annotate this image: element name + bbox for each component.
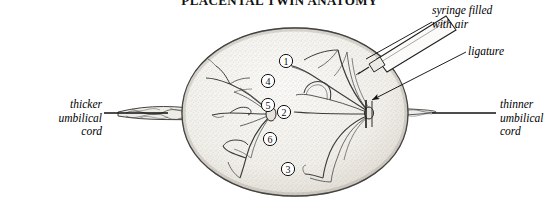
marker-1-label: 1 (284, 56, 289, 67)
marker-4: 4 (261, 74, 274, 87)
label-thicker-umbilical-cord: thicker umbilical cord (6, 98, 102, 139)
label-thinner-umbilical-cord: thinner umbilical cord (500, 98, 556, 139)
marker-2: 2 (277, 105, 290, 118)
marker-1: 1 (279, 54, 292, 67)
placenta-figure: PLACENTAL TWIN ANATOMY (0, 0, 559, 205)
marker-6-label: 6 (268, 134, 273, 145)
label-ligature: ligature (468, 45, 558, 59)
marker-3-label: 3 (286, 164, 291, 175)
marker-5-label: 5 (266, 100, 271, 111)
marker-6: 6 (263, 132, 276, 145)
marker-3: 3 (281, 162, 294, 175)
marker-2-label: 2 (282, 107, 287, 118)
label-syringe-filled-with-air: syringe filled with air (432, 4, 556, 31)
marker-5: 5 (261, 98, 274, 111)
marker-4-label: 4 (266, 76, 271, 87)
